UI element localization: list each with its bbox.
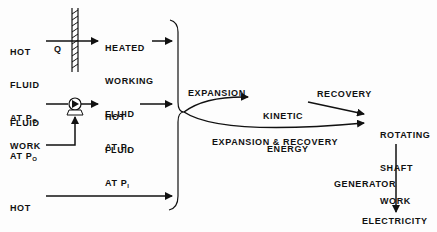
expansion-label: EXPANSION [188,88,246,99]
generator-label: GENERATOR [334,179,396,190]
hot-fluid-p1-label: HOT FLUID AT PI [10,181,40,232]
heat-q-label: Q [54,44,62,55]
kinetic-energy-label: KINETIC ENERGY [263,89,309,177]
diagram-lines [0,0,437,232]
pump-icon [67,98,83,115]
recovery-arrow [308,102,364,114]
subscript: I [127,183,129,189]
label-line: AT P [10,151,32,161]
label-line: HOT [10,47,40,58]
label-line: FLUID [10,80,40,91]
label-line: AT P [105,178,127,188]
label-line: WORKING [105,76,154,87]
work-label: WORK [10,141,41,152]
hot-fluid-pumped-label: HOT FLUID AT PI [105,90,135,214]
energy-conversion-diagram: HOT FLUID AT PO Q HEATED WORKING FLUID A… [0,0,437,232]
expansion-arrow [184,97,248,112]
label-line: WORK [380,196,430,207]
electricity-label: ELECTRICITY [362,216,428,227]
label-line: FLUID [10,118,40,129]
rotating-shaft-work-label: ROTATING SHAFT WORK [380,108,430,229]
hatched-wall-icon [72,8,78,72]
label-line: SHAFT [380,163,430,174]
subscript: O [32,156,37,162]
label-line: HEATED [105,43,154,54]
label-line: FLUID [105,145,135,156]
recovery-label: RECOVERY [317,89,372,100]
label-line: HOT [10,203,40,214]
label-line: KINETIC [263,111,309,122]
expansion-recovery-label: EXPANSION & RECOVERY [212,137,338,148]
work-arrow [46,117,75,145]
bracket [169,20,184,210]
label-line: HOT [105,112,135,123]
label-line: ROTATING [380,130,430,141]
